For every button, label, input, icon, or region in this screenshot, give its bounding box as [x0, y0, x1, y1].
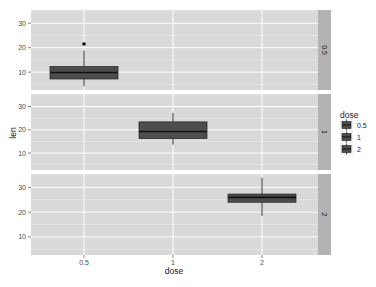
faceted-boxplot-chart: 1020300.510203011020302 0.512 dose len d…: [0, 0, 376, 287]
legend-title: dose: [340, 110, 359, 120]
y-tick-label: 20: [18, 209, 26, 216]
legend-label: 2: [357, 146, 361, 153]
legend-label: 1: [357, 134, 361, 141]
legend-item-1: 1: [340, 131, 361, 143]
outlier-point: [82, 42, 86, 46]
facet-strip-label: 2: [321, 213, 328, 217]
x-tick-label: 2: [260, 259, 264, 266]
legend-label: 0.5: [357, 122, 367, 129]
facet-panel-2: 1020302: [18, 174, 331, 255]
y-tick-label: 10: [18, 69, 26, 76]
facet-strip-label: 0.5: [321, 45, 328, 55]
y-tick-label: 20: [18, 126, 26, 133]
y-tick-label: 30: [18, 184, 26, 191]
facet-panel-1: 1020301: [18, 94, 331, 170]
x-axis-title: dose: [165, 266, 184, 276]
legend: dose 0.512: [340, 110, 367, 155]
x-tick-label: 1: [171, 259, 175, 266]
legend-item-0.5: 0.5: [340, 119, 367, 131]
y-axis-title: len: [8, 127, 18, 139]
y-tick-label: 20: [18, 44, 26, 51]
panel-background: [31, 174, 318, 255]
iqr-box: [139, 122, 207, 139]
plot-area: 1020300.510203011020302 0.512 dose len d…: [0, 0, 376, 287]
facet-panels: 1020300.510203011020302: [18, 10, 331, 255]
facet-panel-0.5: 1020300.5: [18, 10, 331, 90]
y-tick-label: 30: [18, 20, 26, 27]
y-tick-label: 10: [18, 233, 26, 240]
y-tick-label: 30: [18, 103, 26, 110]
y-tick-label: 10: [18, 150, 26, 157]
x-tick-label: 0.5: [79, 259, 89, 266]
x-axis: 0.512: [79, 255, 264, 266]
facet-strip-label: 1: [321, 130, 328, 134]
legend-item-2: 2: [340, 143, 361, 155]
